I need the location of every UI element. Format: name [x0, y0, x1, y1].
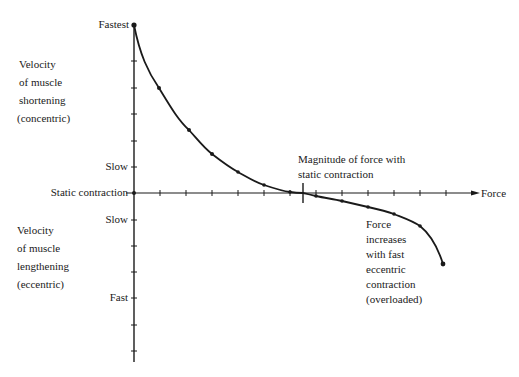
y-tick-slow-upper: Slow — [60, 159, 128, 174]
annotation-eccentric: Force increases with fast eccentric cont… — [366, 217, 422, 307]
y-tick-fast-lower: Fast — [60, 290, 128, 305]
y-tick-fastest: Fastest — [60, 17, 129, 32]
y-tick-slow-lower: Slow — [60, 212, 128, 227]
annotation-static-force: Magnitude of force with static contracti… — [298, 152, 405, 182]
y-axis-label-shortening: Velocity of muscle shortening (concentri… — [17, 57, 70, 117]
y-axis-label-lengthening: Velocity of muscle lengthening (eccentri… — [17, 223, 69, 283]
y-tick-static-contraction: Static contraction — [10, 185, 128, 200]
x-axis-arrow-icon — [471, 191, 480, 196]
x-axis-label-force: Force — [481, 186, 506, 201]
